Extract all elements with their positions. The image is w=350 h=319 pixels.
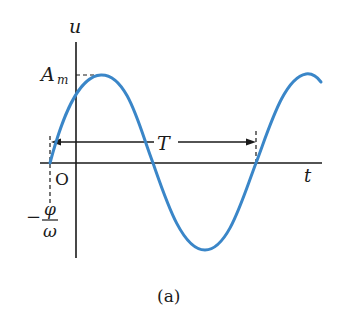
- origin-label: O: [55, 169, 69, 189]
- amplitude-label: A: [39, 63, 55, 85]
- sine-wave-diagram: u t A m T O − φ ω (a): [0, 0, 350, 319]
- phase-denominator: ω: [43, 221, 57, 241]
- phase-minus: −: [26, 206, 41, 227]
- arrowhead-right-icon: [246, 139, 256, 146]
- y-axis-label: u: [69, 15, 81, 37]
- x-axis-label: t: [304, 165, 312, 186]
- phase-numerator: φ: [44, 199, 56, 219]
- figure-caption: (a): [157, 286, 180, 306]
- sine-curve: [50, 74, 321, 250]
- period-label: T: [157, 132, 171, 154]
- amplitude-subscript: m: [57, 73, 68, 87]
